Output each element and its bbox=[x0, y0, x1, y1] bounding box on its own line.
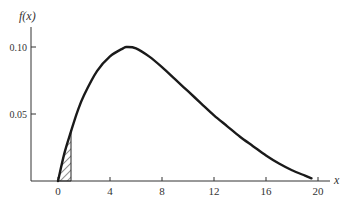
x-axis-label: x bbox=[333, 173, 340, 187]
density-curve bbox=[58, 47, 312, 181]
x-tick-label: 0 bbox=[55, 185, 61, 197]
x-tick-label: 20 bbox=[313, 185, 325, 197]
x-ticks: 048121620 bbox=[55, 177, 324, 197]
x-tick-label: 4 bbox=[107, 185, 113, 197]
x-tick-label: 16 bbox=[261, 185, 273, 197]
y-ticks: 0.050.10 bbox=[10, 42, 37, 120]
y-tick-label: 0.10 bbox=[10, 42, 28, 53]
x-tick-label: 12 bbox=[209, 185, 220, 197]
y-axis-label: f(x) bbox=[19, 9, 36, 23]
y-tick-label: 0.05 bbox=[10, 109, 28, 120]
density-chart: f(x) x 048121620 0.050.10 bbox=[0, 0, 346, 201]
x-tick-label: 8 bbox=[159, 185, 165, 197]
